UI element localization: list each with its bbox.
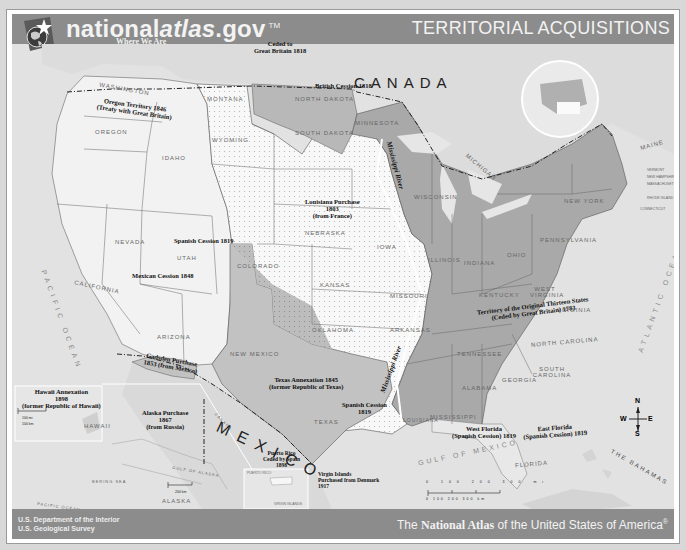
state-nevada: NEVADA <box>115 239 145 245</box>
annotation-louisiana: Louisiana Purchase1803(from France) <box>305 204 360 225</box>
state-kentucky: KENTUCKY <box>479 292 520 298</box>
state-rhode-island: RHODE ISLAND <box>647 196 673 200</box>
compass-s: S <box>635 430 640 437</box>
map-canvas <box>12 44 674 509</box>
state-ohio: OHIO <box>507 252 526 258</box>
state-wisconsin: WISCONSIN <box>414 194 458 200</box>
state-montana: MONTANA <box>207 96 244 102</box>
compass-w: W <box>620 415 627 422</box>
state-massachusetts: MASSACHUSETTS <box>647 182 674 186</box>
header-bar: nationalatlas.govTM Where We Are TERRITO… <box>12 14 674 44</box>
state-new-hampshire: NEW HAMPSHIRE <box>647 175 674 179</box>
scale-km: 0 100 200 300 km <box>426 497 486 501</box>
map-area: CANADA MEXICO CUBA THE BAHAMAS PACIFIC O… <box>12 44 674 509</box>
footer-bar: U.S. Department of the Interior U.S. Geo… <box>12 509 674 539</box>
state-alabama: ALABAMA <box>462 385 497 391</box>
annotation-ceded-gb-1818: Ceded toGreat Britain 1818 <box>254 40 306 54</box>
inset-puerto-rico-title: PUERTO RICO <box>247 471 271 475</box>
annotation-spanish-1819-south: Spanish Cession1819 <box>342 403 387 417</box>
state-connecticut: CONNECTICUT <box>640 207 665 211</box>
state-nebraska: NEBRASKA <box>305 230 346 236</box>
state-iowa: IOWA <box>377 244 397 250</box>
logo-wordmark[interactable]: nationalatlas.govTM <box>66 15 280 43</box>
state-illinois: ILLINOIS <box>428 257 461 263</box>
state-new-york: NEW YORK <box>564 198 605 204</box>
state-alaska: ALASKA <box>162 498 191 504</box>
annotation-texas: Texas Annexation 1845(former Republic of… <box>269 376 343 390</box>
state-utah: UTAH <box>177 255 197 261</box>
alaska-scale-km: 200 km <box>175 490 186 494</box>
annotation-spanish-1819-north: Spanish Cession 1819 <box>174 237 234 244</box>
page-title: TERRITORIAL ACQUISITIONS <box>412 18 670 39</box>
compass-rose-icon: N S W E <box>623 399 653 439</box>
agency-credit: U.S. Department of the Interior U.S. Geo… <box>18 515 120 533</box>
state-south-carolina: SOUTH CAROLINA <box>532 366 572 378</box>
state-west-virginia: WEST VIRGINIA <box>530 286 560 298</box>
state-mississippi: MISSISSIPPI <box>430 414 477 420</box>
annotation-alaska: Alaska Purchase1867(from Russia) <box>142 433 188 454</box>
state-wyoming: WYOMING <box>212 137 249 143</box>
state-north-dakota: NORTH DAKOTA <box>295 96 354 102</box>
annotation-british-cession: British Cession 1818 <box>315 122 372 129</box>
state-hawaii: HAWAII <box>84 423 111 429</box>
state-idaho: IDAHO <box>162 155 186 161</box>
label-bering-sea: BERING SEA <box>92 479 126 484</box>
scale-miles: 0 100 200 300 mi <box>426 480 549 484</box>
hawaii-scale-km: 100 km <box>22 422 33 426</box>
hawaii-scale-mi: 100 mi <box>22 416 33 420</box>
map-frame: nationalatlas.govTM Where We Are TERRITO… <box>6 9 680 544</box>
state-texas: TEXAS <box>314 419 339 425</box>
state-arizona: ARIZONA <box>157 334 191 340</box>
annotation-west-florida: West Florida(Spanish Cession) 1819 <box>452 425 516 439</box>
annotation-puerto-rico: Puerto RicoCeded by Spain1898 <box>263 484 300 502</box>
state-missouri: MISSOURI <box>390 293 428 299</box>
state-arkansas: ARKANSAS <box>390 327 431 333</box>
state-oklahoma: OKLAHOMA <box>312 327 354 333</box>
compass-n: N <box>635 397 640 404</box>
compass-e: E <box>648 415 653 422</box>
state-south-dakota: SOUTH DAKOTA <box>295 130 354 136</box>
state-kansas: KANSAS <box>320 282 350 288</box>
state-indiana: INDIANA <box>464 260 495 266</box>
state-vermont: VERMONT <box>647 168 665 172</box>
state-new-mexico: NEW MEXICO <box>230 351 279 357</box>
inset-virgin-islands-title: VIRGIN ISLANDS <box>274 502 302 506</box>
state-colorado: COLORADO <box>237 263 279 269</box>
annotation-hawaii: Hawaii Annexation1898(former Republic of… <box>22 395 101 416</box>
map-sheet: nationalatlas.govTM Where We Are TERRITO… <box>12 14 674 539</box>
state-tennessee: TENNESSEE <box>457 351 502 357</box>
state-pennsylvania: PENNSYLVANIA <box>540 237 597 243</box>
annotation-mexican: Mexican Cession 1848 <box>132 272 193 279</box>
atlas-credit: The National Atlas of the United States … <box>397 518 668 533</box>
